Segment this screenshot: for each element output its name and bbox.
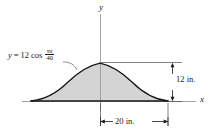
equation-lhs: y (8, 51, 12, 60)
equation-leader-line (63, 62, 77, 70)
equation-equals: = (14, 51, 19, 60)
shaded-region (31, 63, 168, 101)
equation-coefficient: 12 (21, 51, 30, 60)
horizontal-dimension-label: 20 in. (113, 117, 136, 126)
equation-fraction: πx 40 (45, 48, 54, 63)
curve-equation-label: y = 12 cos πx 40 (8, 48, 54, 63)
equation-function: cos (31, 51, 42, 60)
figure-container: y x y = 12 cos πx 40 12 in. 20 in. (0, 0, 212, 136)
vertical-dimension-line (171, 63, 175, 101)
equation-denominator: 40 (45, 55, 54, 62)
vertical-dimension-label: 12 in. (176, 75, 195, 84)
equation-numerator: πx (46, 48, 54, 55)
diagram-canvas (0, 0, 212, 136)
x-axis-label: x (200, 95, 204, 104)
y-axis-label: y (99, 3, 103, 12)
